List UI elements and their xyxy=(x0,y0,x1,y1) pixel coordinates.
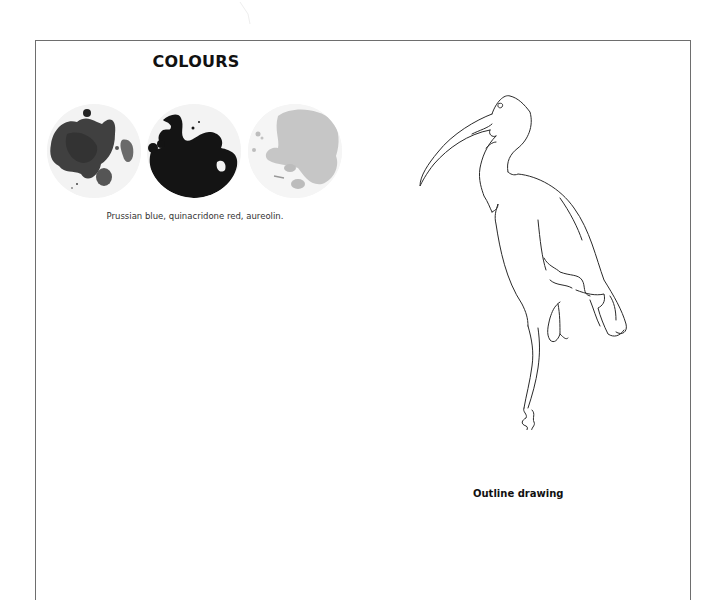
ibis-outline-drawing xyxy=(410,90,650,430)
watercolor-blot-icon xyxy=(248,104,342,198)
swatch-aureolin xyxy=(248,104,342,198)
watercolor-blot-icon xyxy=(147,104,241,198)
faint-mark xyxy=(238,0,258,30)
watercolor-blot-icon xyxy=(47,104,141,198)
swatch-quinacridone-red xyxy=(147,104,241,198)
drawing-label: Outline drawing xyxy=(473,488,563,499)
colours-title: COLOURS xyxy=(140,52,252,71)
colours-caption: Prussian blue, quinacridone red, aureoli… xyxy=(60,211,330,221)
swatch-prussian-blue xyxy=(47,104,141,198)
